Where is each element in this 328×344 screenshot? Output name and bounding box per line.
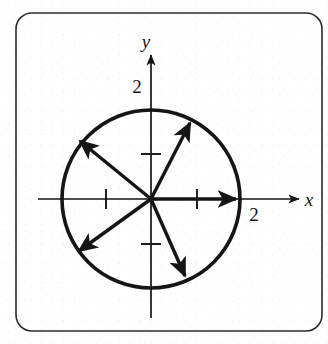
vector-293-deg (151, 199, 185, 276)
vector-150-deg (80, 141, 151, 199)
vector-62-deg (151, 123, 190, 199)
y-axis-label: y (140, 31, 151, 52)
rounded-rectangle-border (16, 13, 322, 331)
vector-212-deg (79, 199, 151, 251)
figure-container: y x 2 2 (0, 0, 328, 344)
circle-vector-diagram: y x 2 2 (0, 0, 328, 344)
y-axis-value-label-2: 2 (132, 76, 142, 97)
x-axis-value-label-2: 2 (249, 204, 259, 225)
x-axis-label: x (304, 189, 314, 210)
